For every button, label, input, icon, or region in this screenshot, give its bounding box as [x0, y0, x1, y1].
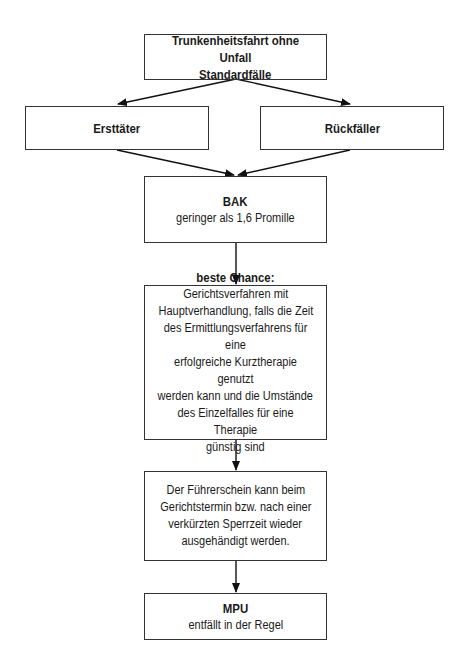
node-bak: BAK geringer als 1,6 Promille [144, 176, 327, 243]
node-repeat-offender-title: Rückfäller [324, 120, 379, 137]
node-bak-body: geringer als 1,6 Promille [176, 210, 295, 227]
node-license-line: ausgehändigt werden. [181, 533, 289, 550]
node-mpu-title: MPU [223, 600, 248, 617]
node-best-chance-line: des Einzelfalles für eine Therapie [156, 405, 315, 439]
node-mpu: MPU entfällt in der Regel [144, 593, 327, 640]
node-root-subtitle: Standardfälle [199, 66, 271, 83]
node-best-chance: beste Chance: Gerichtsverfahren mit Haup… [144, 285, 327, 440]
node-mpu-body: entfällt in der Regel [188, 617, 283, 634]
node-license-line: Der Führerschein kann beim [166, 482, 305, 499]
node-best-chance-line: erfolgreiche Kurztherapie genutzt [156, 354, 315, 388]
node-best-chance-line: günstig sind [206, 439, 265, 456]
node-license: Der Führerschein kann beim Gerichtstermi… [144, 471, 327, 561]
node-root-title: Trunkenheitsfahrt ohne Unfall [156, 32, 315, 66]
node-best-chance-line: des Ermittlungsverfahrens für eine [156, 320, 315, 354]
arrow-root-to-first-offender [118, 79, 236, 104]
node-first-offender: Ersttäter [25, 106, 209, 150]
node-first-offender-title: Ersttäter [93, 120, 140, 137]
node-best-chance-line: Gerichtsverfahren mit [183, 286, 288, 303]
node-license-line: Gerichtstermin bzw. nach einer [160, 499, 311, 516]
node-best-chance-line: Hauptverhandlung, falls die Zeit [158, 303, 313, 320]
node-license-line: verkürzten Sperrzeit wieder [169, 516, 303, 533]
node-best-chance-line: werden kann und die Umstände [158, 388, 313, 405]
node-best-chance-title: beste Chance: [196, 269, 274, 286]
node-repeat-offender: Rückfäller [260, 106, 444, 150]
node-root: Trunkenheitsfahrt ohne Unfall Standardfä… [144, 34, 327, 80]
arrow-repeat-offender-to-bak [238, 150, 350, 175]
arrow-root-to-repeat-offender [236, 79, 350, 104]
arrow-first-offender-to-bak [117, 150, 234, 175]
node-bak-title: BAK [223, 193, 248, 210]
